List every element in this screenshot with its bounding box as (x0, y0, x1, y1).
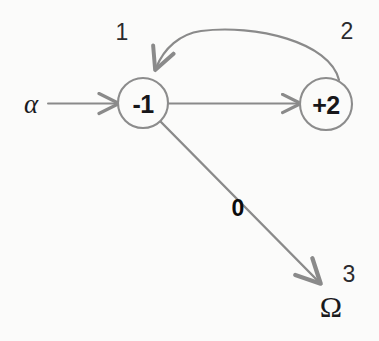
edge-node2-to-node1-arc (156, 30, 339, 80)
diagram-canvas: -1 +2 1 2 3 Ω α 0 (0, 0, 379, 341)
edge-weight-label-zero: 0 (232, 195, 245, 221)
node-plus-two[interactable]: +2 (300, 78, 352, 130)
node-index-label-1: 1 (116, 19, 129, 45)
entry-alpha-label: α (24, 89, 39, 119)
node-plus-two-label: +2 (312, 91, 340, 119)
node-minus-one-label: -1 (132, 90, 154, 118)
node-omega-label: Ω (320, 290, 342, 323)
node-minus-one[interactable]: -1 (118, 78, 168, 128)
node-index-label-2: 2 (341, 18, 354, 44)
edge-arc-path (156, 30, 339, 80)
graph-diagram: -1 +2 1 2 3 Ω α 0 (0, 0, 379, 341)
node-index-label-3: 3 (343, 261, 356, 287)
